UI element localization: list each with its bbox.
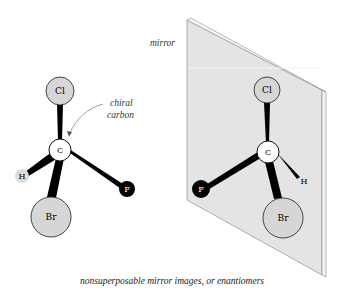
bond-c-f-left (66, 147, 126, 191)
svg-text:F: F (124, 185, 130, 194)
svg-text:Cl: Cl (55, 86, 65, 96)
annotation-arrow (69, 104, 103, 135)
atom-br-right: Br (263, 198, 303, 238)
mirror-label: mirror (150, 38, 175, 48)
svg-text:F: F (198, 185, 204, 194)
figure-caption: nonsuperposable mirror images, or enanti… (80, 276, 264, 286)
diagram-canvas: mirror Cl H Br F (0, 0, 344, 294)
svg-text:C: C (57, 146, 63, 155)
svg-text:chiral: chiral (110, 98, 133, 108)
svg-text:H: H (19, 172, 26, 181)
atom-cl-left: Cl (46, 77, 74, 105)
atom-c-left: C (49, 139, 71, 161)
mirror-plane (187, 18, 326, 277)
svg-text:C: C (265, 148, 271, 157)
atom-cl-right: Cl (254, 77, 280, 103)
atom-f-right: F (192, 180, 210, 198)
atom-h-left: H (15, 169, 29, 183)
svg-text:Br: Br (278, 213, 290, 223)
atom-br-left: Br (31, 197, 71, 237)
arrowhead-icon (67, 131, 72, 137)
bond-c-cl-left (57, 104, 63, 142)
chiral-carbon-annotation: chiral carbon (67, 98, 134, 137)
svg-text:carbon: carbon (107, 110, 134, 120)
atom-f-left: F (119, 181, 135, 197)
atom-h-right: H (301, 177, 308, 186)
enantiomer-diagram: mirror Cl H Br F (0, 0, 344, 294)
svg-text:Br: Br (46, 212, 58, 222)
atom-c-right: C (257, 141, 279, 163)
svg-text:Cl: Cl (262, 85, 272, 95)
bond-c-br-left (47, 158, 64, 198)
svg-text:H: H (301, 177, 308, 186)
